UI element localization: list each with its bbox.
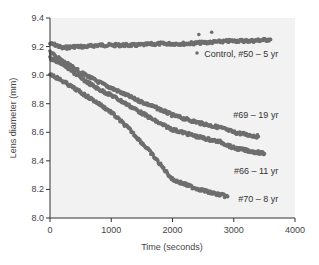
- series-label-0: Control, #50 – 5 yr: [204, 49, 278, 59]
- x-tick-label: 3000: [224, 225, 244, 235]
- x-tick-label: 2000: [162, 225, 182, 235]
- y-tick-label: 9.0: [31, 70, 44, 80]
- series-label-2: #66 – 11 yr: [234, 166, 278, 176]
- y-tick-label: 9.4: [31, 13, 44, 23]
- series-label-1: #69 – 19 yr: [233, 110, 278, 120]
- y-tick-label: 8.2: [31, 184, 44, 194]
- x-axis-label: Time (seconds): [141, 242, 203, 252]
- x-tick-label: 0: [47, 225, 52, 235]
- x-tick-label: 1000: [101, 225, 121, 235]
- line-chart: 8.08.28.48.68.89.09.29.40100020003000400…: [0, 0, 319, 265]
- x-tick-label: 4000: [285, 225, 305, 235]
- y-tick-label: 8.4: [31, 156, 44, 166]
- y-tick-label: 9.2: [31, 42, 44, 52]
- y-axis-label: Lens diameter (mm): [8, 78, 18, 159]
- y-tick-label: 8.8: [31, 99, 44, 109]
- y-tick-label: 8.0: [31, 213, 44, 223]
- series-label-3: #70 – 8 yr: [238, 194, 278, 204]
- y-tick-label: 8.6: [31, 127, 44, 137]
